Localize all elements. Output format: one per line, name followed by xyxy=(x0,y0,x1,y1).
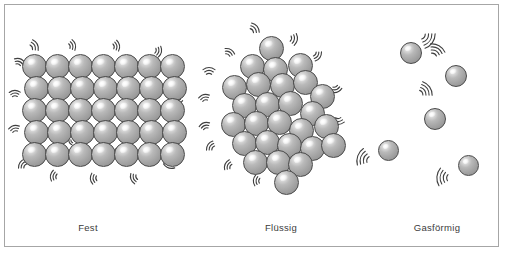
particle-sphere xyxy=(378,140,399,161)
panel-caption-gas: Gasförmig xyxy=(377,222,497,233)
panel-gas: Gasförmig xyxy=(5,5,498,246)
particle-sphere xyxy=(458,155,479,176)
states-of-matter-figure: FestFlüssigGasförmig xyxy=(0,0,507,255)
particle-sphere xyxy=(400,42,422,64)
particle-sphere xyxy=(424,108,446,130)
figure-stage: FestFlüssigGasförmig xyxy=(5,5,498,246)
figure-frame: FestFlüssigGasförmig xyxy=(4,4,499,247)
particle-sphere xyxy=(445,65,467,87)
